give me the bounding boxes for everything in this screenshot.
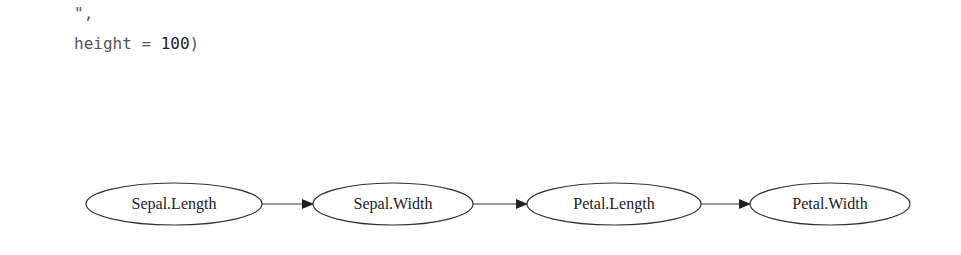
- dag-diagram: Sepal.LengthSepal.WidthPetal.LengthPetal…: [0, 0, 961, 255]
- node-label: Sepal.Width: [354, 195, 433, 213]
- node-sepal-length: Sepal.Length: [86, 183, 262, 225]
- node-petal-length: Petal.Length: [527, 183, 701, 225]
- node-label: Petal.Width: [792, 195, 867, 212]
- node-label: Sepal.Length: [132, 195, 217, 213]
- node-petal-width: Petal.Width: [750, 183, 910, 225]
- node-sepal-width: Sepal.Width: [313, 183, 473, 225]
- node-label: Petal.Length: [573, 195, 654, 213]
